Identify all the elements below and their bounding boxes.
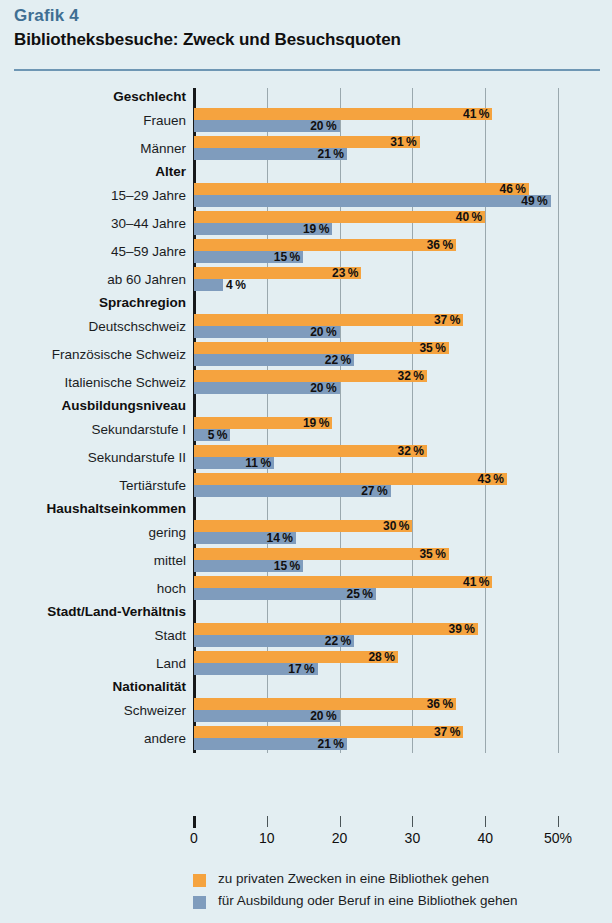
bar-group-label: Geschlecht: [113, 89, 186, 104]
plot-area: GeschlechtFrauen41 %20 %Männer31 %21 %Al…: [0, 88, 612, 753]
bar-row-label: andere: [144, 731, 186, 746]
chart-kicker: Grafik 4: [14, 6, 79, 26]
bar-row: Frauen41 %20 %: [0, 107, 612, 135]
bar-value-label: 32 %: [398, 444, 424, 458]
bar-row: Italienische Schweiz32 %20 %: [0, 369, 612, 397]
bar-row: mittel35 %15 %: [0, 547, 612, 575]
bar-value-label: 22 %: [325, 353, 351, 367]
bar-row-label: gering: [148, 525, 186, 540]
bar-training-wrap: 22 %: [194, 635, 354, 647]
bar-row-label: Frauen: [143, 113, 186, 128]
bar-private: 46 %: [194, 183, 529, 195]
bar-group-header: Sprachregion: [0, 294, 612, 313]
bar-value-label: 20 %: [310, 119, 336, 133]
bar-training: 5 %: [194, 429, 230, 441]
bar-training-wrap: 20 %: [194, 120, 340, 132]
bar-training-wrap: 49 %: [194, 195, 551, 207]
bar-training-wrap: 27 %: [194, 485, 391, 497]
bar-training-wrap: 11 %: [194, 457, 274, 469]
legend-swatch-icon: [193, 874, 206, 887]
bar-group-label: Sprachregion: [99, 295, 186, 310]
bar-training-wrap: 15 %: [194, 251, 303, 263]
bar-training: 27 %: [194, 485, 391, 497]
bar-group-label: Nationalität: [112, 679, 186, 694]
bar-value-label: 14 %: [266, 531, 292, 545]
bar-value-label: 28 %: [368, 650, 394, 664]
bar-row-label: Tertiärstufe: [119, 478, 186, 493]
bar-value-label: 36 %: [427, 238, 453, 252]
bar-private: 23 %: [194, 267, 361, 279]
bar-training: 21 %: [194, 738, 347, 750]
bar-row-label: mittel: [154, 553, 186, 568]
axis-tick: [412, 816, 413, 827]
bar-row: Männer31 %21 %: [0, 135, 612, 163]
bar-value-label: 30 %: [383, 519, 409, 533]
bar-training: 4 %: [194, 279, 223, 291]
bar-value-label: 20 %: [310, 709, 336, 723]
bar-private-wrap: 41 %: [194, 576, 492, 588]
bar-training-wrap: 25 %: [194, 588, 376, 600]
bar-value-label: 21 %: [317, 147, 343, 161]
title-divider: [14, 69, 600, 71]
bar-private-wrap: 40 %: [194, 211, 485, 223]
bar-row: Sekundarstufe II32 %11 %: [0, 444, 612, 472]
bar-row-label: Land: [156, 656, 186, 671]
bar-groups: GeschlechtFrauen41 %20 %Männer31 %21 %Al…: [0, 88, 612, 753]
bar-training-wrap: 17 %: [194, 663, 318, 675]
axis-tick-label: 40: [477, 830, 493, 846]
bar-value-label: 39 %: [448, 622, 474, 636]
bar-row-label: Schweizer: [124, 703, 186, 718]
bar-group-label: Stadt/Land-Verhältnis: [47, 604, 186, 619]
bar-value-label: 19 %: [303, 416, 329, 430]
bar-value-label: 11 %: [245, 456, 271, 470]
bar-row-label: 30–44 Jahre: [111, 216, 186, 231]
bar-training: 22 %: [194, 354, 354, 366]
bar-private: 40 %: [194, 211, 485, 223]
bar-training: 20 %: [194, 120, 340, 132]
page-title: Bibliotheksbesuche: Zweck und Besuchsquo…: [14, 30, 401, 50]
bar-training: 25 %: [194, 588, 376, 600]
bar-value-label: 4 %: [223, 278, 246, 292]
bar-private-wrap: 35 %: [194, 548, 449, 560]
bar-training-wrap: 5 %: [194, 429, 230, 441]
axis-tick: [485, 816, 486, 827]
bar-row-label: Männer: [140, 141, 186, 156]
bar-private-wrap: 46 %: [194, 183, 529, 195]
bar-training-wrap: 14 %: [194, 532, 296, 544]
bar-row: Schweizer36 %20 %: [0, 697, 612, 725]
bar-private: 41 %: [194, 108, 492, 120]
bar-value-label: 15 %: [274, 559, 300, 573]
bar-private: 43 %: [194, 473, 507, 485]
bar-group-header: Alter: [0, 163, 612, 182]
axis-tick-label: 20: [332, 830, 348, 846]
bar-row-label: Sekundarstufe I: [91, 422, 186, 437]
bar-group-label: Alter: [155, 164, 186, 179]
bar-value-label: 32 %: [398, 369, 424, 383]
axis-tick-label: 0: [190, 830, 198, 846]
bar-row: Land28 %17 %: [0, 650, 612, 678]
bar-value-label: 17 %: [288, 662, 314, 676]
bar-value-label: 19 %: [303, 222, 329, 236]
bar-training-wrap: 4 %: [194, 279, 223, 291]
bar-value-label: 15 %: [274, 250, 300, 264]
bar-training: 15 %: [194, 251, 303, 263]
bar-private-wrap: 30 %: [194, 520, 412, 532]
bar-value-label: 43 %: [478, 472, 504, 486]
bar-training: 22 %: [194, 635, 354, 647]
bar-row: gering30 %14 %: [0, 519, 612, 547]
bar-training: 15 %: [194, 560, 303, 572]
bar-value-label: 37 %: [434, 313, 460, 327]
bar-value-label: 27 %: [361, 484, 387, 498]
axis-tick-label: 50%: [544, 830, 572, 846]
bar-group-label: Haushaltseinkommen: [46, 501, 186, 516]
bar-row: Tertiärstufe43 %27 %: [0, 472, 612, 500]
axis-tick: [558, 816, 559, 827]
bar-training-wrap: 22 %: [194, 354, 354, 366]
bar-private: 35 %: [194, 548, 449, 560]
bar-value-label: 25 %: [347, 587, 373, 601]
bar-value-label: 20 %: [310, 325, 336, 339]
bar-value-label: 23 %: [332, 266, 358, 280]
bar-row: andere37 %21 %: [0, 725, 612, 753]
bar-training-wrap: 21 %: [194, 148, 347, 160]
bar-value-label: 40 %: [456, 210, 482, 224]
